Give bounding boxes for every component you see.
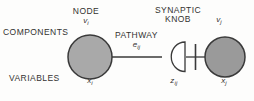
synaptic-knob-variable-symbol: zij — [160, 77, 188, 85]
row-label-components: COMPONENTS — [3, 28, 68, 37]
node-symbol-subscript: i — [87, 20, 89, 26]
row-label-variables: VARIABLES — [9, 74, 60, 83]
synaptic-knob-shape — [171, 42, 185, 72]
target-node-component-symbol: vj — [204, 16, 234, 24]
node-circle-target — [205, 37, 245, 77]
pathway-component-symbol: eij — [110, 41, 163, 49]
node-variable-symbol: xi — [77, 77, 103, 85]
synaptic-knob-title-line2: KNOB — [150, 15, 206, 24]
node-variable-subscript: i — [91, 80, 93, 86]
node-title: NODE — [67, 7, 105, 16]
figure-canvas: COMPONENTS VARIABLES NODE vi PATHWAY eij… — [0, 0, 254, 101]
pathway-title: PATHWAY — [110, 31, 163, 40]
target-node-variable-symbol: xj — [211, 77, 237, 85]
target-node-symbol-subscript: j — [220, 19, 222, 25]
pathway-symbol-subscript: ij — [137, 44, 140, 50]
knob-variable-subscript: ij — [175, 80, 178, 86]
target-variable-subscript: j — [225, 80, 227, 86]
node-component-symbol: vi — [67, 17, 105, 25]
node-circle-source — [68, 35, 112, 79]
knob-variable-base: z — [170, 76, 174, 85]
